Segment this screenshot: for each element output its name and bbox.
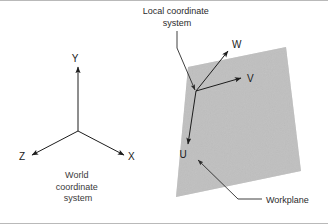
world-coordinate-system: Y X Z World coordinate system: [19, 53, 135, 203]
workplane-group: [176, 47, 301, 197]
world-y-axis-label: Y: [72, 53, 79, 64]
diagram-canvas: Y X Z World coordinate system W V U Loca…: [0, 0, 328, 224]
world-x-axis-label: X: [128, 151, 135, 162]
local-coordinate-annotation: Local coordinate system: [143, 6, 212, 28]
world-z-axis-line: [32, 131, 78, 155]
world-z-axis-label: Z: [19, 151, 25, 162]
world-caption-line-2: coordinate: [56, 182, 98, 192]
world-caption-line-1: World: [65, 170, 88, 180]
local-annotation-line-1: Local coordinate: [143, 6, 209, 16]
world-caption-line-3: system: [64, 193, 93, 203]
local-w-axis-label: W: [232, 39, 242, 50]
workplane-coordinate-diagram: Y X Z World coordinate system W V U Loca…: [0, 0, 328, 224]
local-annotation-line-2: system: [163, 18, 192, 28]
local-v-axis-label: V: [247, 73, 254, 84]
workplane-texture: [176, 47, 301, 197]
workplane-label: Workplane: [266, 195, 309, 205]
local-u-axis-label: U: [179, 149, 186, 160]
world-x-axis-line: [78, 131, 124, 155]
world-caption: World coordinate system: [56, 170, 101, 203]
